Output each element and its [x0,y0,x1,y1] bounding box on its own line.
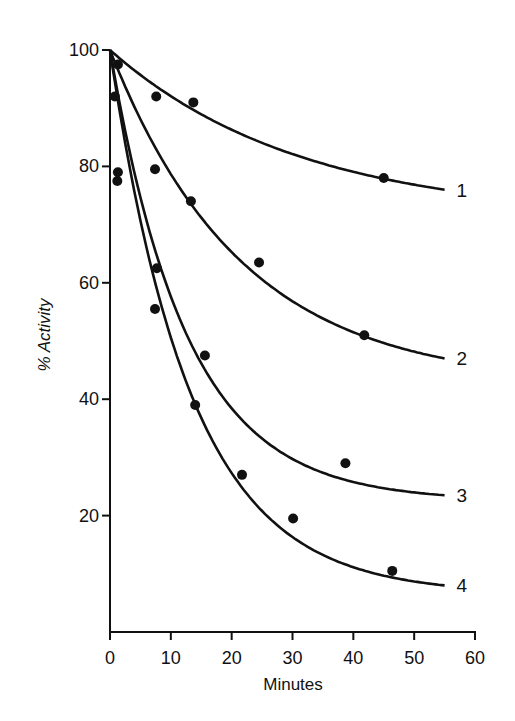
x-axis-title: Minutes [263,675,323,694]
data-point [186,196,196,206]
data-point [151,92,161,102]
x-ticks: 0102030405060 [105,632,485,668]
data-point [152,263,162,273]
data-point [237,470,247,480]
data-point [288,514,298,524]
curve-label-2: 2 [457,348,468,369]
curve-label-3: 3 [457,485,468,506]
data-point [190,400,200,410]
x-tick-label: 60 [465,648,485,668]
activity-decay-chart: 20406080100 0102030405060 Minutes % Acti… [0,0,515,721]
y-axis-title: % Activity [35,297,54,372]
data-point [110,92,120,102]
data-point [387,566,397,576]
y-tick-label: 100 [69,40,99,60]
data-point [340,458,350,468]
data-point [188,97,198,107]
curve-label-1: 1 [457,180,468,201]
curve-label-4: 4 [457,575,468,596]
data-point [112,176,122,186]
fit-curve-3 [110,50,445,495]
y-tick-label: 80 [79,156,99,176]
x-tick-label: 50 [404,648,424,668]
x-tick-label: 40 [343,648,363,668]
x-tick-label: 10 [161,648,181,668]
data-point [379,173,389,183]
data-point [200,351,210,361]
data-point [150,304,160,314]
y-ticks: 20406080100 [69,40,110,526]
y-tick-label: 40 [79,389,99,409]
data-point [113,167,123,177]
y-tick-label: 20 [79,506,99,526]
fit-curve-4 [110,50,445,585]
y-tick-label: 60 [79,273,99,293]
curve-labels: 1234 [457,180,468,597]
x-tick-label: 20 [222,648,242,668]
fit-curves [110,50,445,585]
x-tick-label: 0 [105,648,115,668]
fit-curve-1 [110,50,445,190]
x-tick-label: 30 [282,648,302,668]
data-points [110,60,397,576]
data-point [150,164,160,174]
data-point [359,330,369,340]
data-point [113,60,123,70]
data-point [254,257,264,267]
